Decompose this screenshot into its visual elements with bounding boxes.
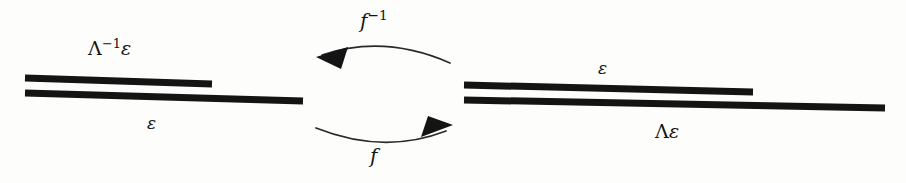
arrow-f xyxy=(316,116,453,142)
label-f-inverse-exponent: −1 xyxy=(368,7,388,23)
label-epsilon-right: ε xyxy=(598,60,607,77)
label-lambda-epsilon-suffix: ε xyxy=(669,120,679,142)
label-f-inverse: f−1 xyxy=(360,9,388,31)
label-epsilon-left: ε xyxy=(147,115,156,132)
label-f: f xyxy=(370,146,378,166)
label-lambda-inverse-epsilon-base: Λ xyxy=(88,37,102,59)
label-lambda-inverse-epsilon: Λ−1ε xyxy=(88,38,131,58)
arrows-layer xyxy=(0,0,906,183)
label-lambda-epsilon: Λε xyxy=(655,122,679,141)
arrow-f-inverse xyxy=(316,46,450,69)
label-f-inverse-base: f xyxy=(360,9,368,33)
arrow-f-inverse-head xyxy=(316,47,348,69)
label-lambda-inverse-epsilon-suffix: ε xyxy=(121,37,131,59)
label-lambda-inverse-epsilon-exponent: −1 xyxy=(102,36,121,51)
label-lambda-epsilon-base: Λ xyxy=(655,120,669,142)
scaling-correspondence-diagram: Λ−1ε ε ε Λε f−1 f xyxy=(0,0,906,183)
